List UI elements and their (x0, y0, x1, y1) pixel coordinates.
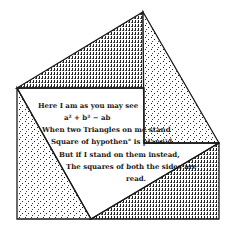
geometric-figure (0, 0, 230, 230)
top-triangle (17, 12, 144, 88)
verse-line-5: But if I stand on them instead, (59, 151, 180, 159)
verse-line-7: read. (126, 175, 146, 183)
verse-line-1: Here I am as you may see (38, 102, 138, 110)
verse-line-3: When two Triangles on me stand (42, 126, 171, 134)
verse-line-6: The squares of both the sides are (66, 163, 197, 171)
pythagorean-verse-diagram: Here I am as you may see a² + b² − ab Wh… (0, 0, 230, 230)
right-triangle (143, 12, 219, 143)
verse-line-4: Square of hypothen° is plann'd (51, 138, 172, 146)
verse-line-formula: a² + b² − ab (64, 114, 110, 122)
